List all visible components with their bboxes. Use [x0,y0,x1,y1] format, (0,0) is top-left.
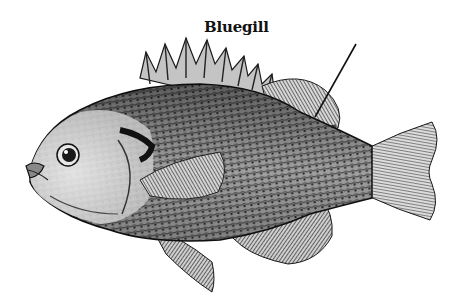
fish-label: Bluegill [204,18,269,36]
fish-eye [57,144,79,166]
bluegill-illustration [0,0,463,306]
tail-fin [368,122,437,220]
illustration-canvas [0,0,463,306]
